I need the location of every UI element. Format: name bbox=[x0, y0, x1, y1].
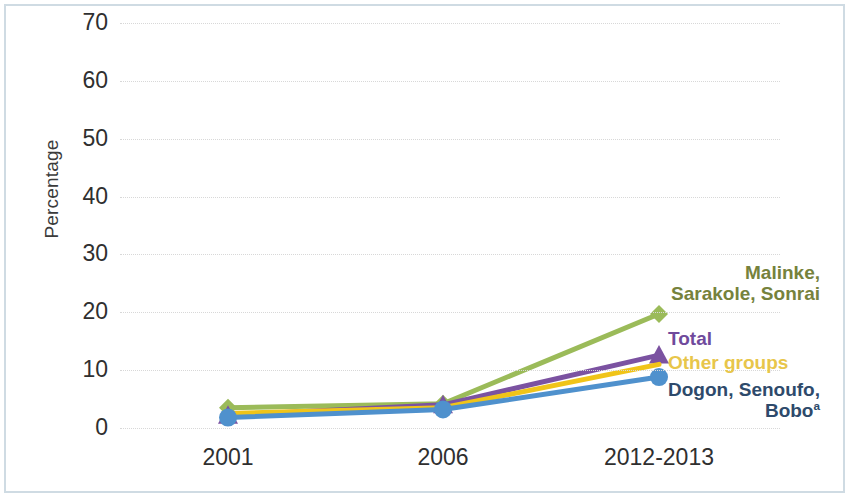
gridline-70 bbox=[120, 23, 780, 24]
gridline-40 bbox=[120, 197, 780, 198]
x-axis-tick-2001: 2001 bbox=[202, 444, 253, 471]
series-label-total: Total bbox=[668, 328, 712, 349]
y-axis-tick-60: 60 bbox=[60, 69, 108, 92]
chart-figure: Percentage 706050403020100 200120062012-… bbox=[0, 0, 849, 499]
series-label-malinke-line2: Sarakole, Sonrai bbox=[671, 283, 820, 304]
series-marker-0-2 bbox=[650, 305, 668, 323]
y-axis-tick-70: 70 bbox=[60, 11, 108, 34]
series-label-dogon-footnote: a bbox=[813, 399, 820, 412]
y-axis-tick-40: 40 bbox=[60, 185, 108, 208]
y-axis-tick-30: 30 bbox=[60, 242, 108, 265]
series-line-0 bbox=[228, 314, 659, 408]
series-label-dogon-line2: Bobo bbox=[765, 400, 814, 421]
y-axis-tick-0: 0 bbox=[60, 416, 108, 439]
y-axis-tick-labels: 706050403020100 bbox=[60, 0, 108, 499]
gridline-50 bbox=[120, 139, 780, 140]
series-label-other-groups-text: Other groups bbox=[668, 352, 788, 373]
series-label-dogon-line1: Dogon, Senoufo, bbox=[668, 379, 820, 400]
gridline-60 bbox=[120, 81, 780, 82]
series-marker-3-1 bbox=[434, 400, 452, 418]
x-axis-tick-labels: 200120062012-2013 bbox=[120, 444, 780, 484]
y-axis-tick-20: 20 bbox=[60, 300, 108, 323]
y-axis-tick-50: 50 bbox=[60, 127, 108, 150]
gridline-0 bbox=[120, 428, 780, 429]
x-axis-tick-2012-2013: 2012-2013 bbox=[604, 444, 714, 471]
gridline-30 bbox=[120, 254, 780, 255]
series-label-dogon-senoufo-bobo: Dogon, Senoufo, Boboa bbox=[640, 379, 820, 422]
gridline-20 bbox=[120, 312, 780, 313]
series-label-total-text: Total bbox=[668, 328, 712, 349]
series-label-other-groups: Other groups bbox=[668, 352, 788, 373]
y-axis-tick-10: 10 bbox=[60, 358, 108, 381]
series-marker-3-0 bbox=[219, 409, 237, 427]
x-axis-tick-2006: 2006 bbox=[417, 444, 468, 471]
series-label-malinke-line1: Malinke, bbox=[745, 262, 820, 283]
series-label-malinke-sarakole-sonrai: Malinke, Sarakole, Sonrai bbox=[640, 262, 820, 305]
